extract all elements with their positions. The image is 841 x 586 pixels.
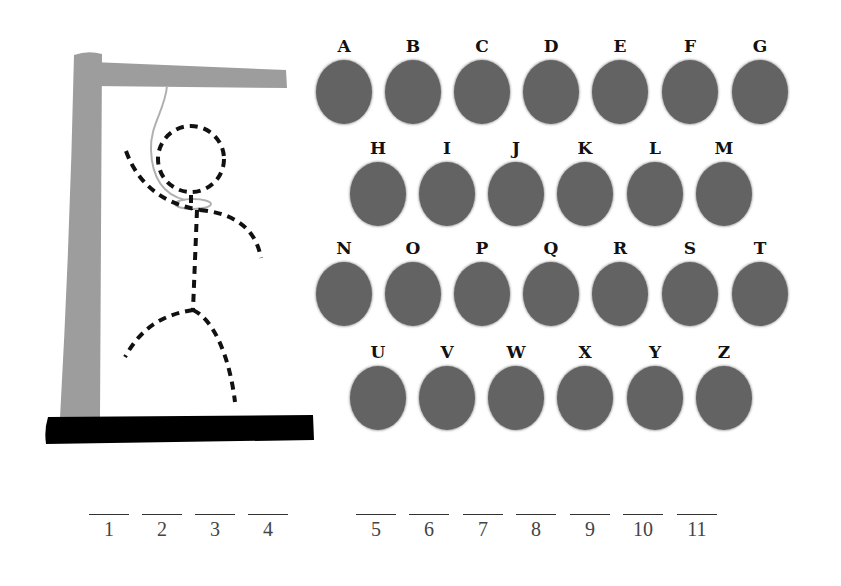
letter-button-n[interactable]: N — [316, 238, 372, 328]
blank-position: 1 — [89, 518, 129, 541]
blank-line — [142, 514, 182, 515]
letter-blank-9: 9 — [570, 514, 610, 554]
letter-disc[interactable] — [419, 162, 475, 226]
letter-label: H — [350, 138, 406, 158]
letter-button-x[interactable]: X — [557, 342, 613, 432]
letter-blank-5: 5 — [356, 514, 396, 554]
blank-position: 7 — [463, 518, 503, 541]
gallows-base — [45, 415, 314, 444]
letter-label: F — [662, 36, 718, 56]
letter-disc[interactable] — [732, 60, 788, 124]
letter-label: O — [385, 238, 441, 258]
letter-disc[interactable] — [350, 366, 406, 430]
blank-position: 3 — [195, 518, 235, 541]
letter-disc[interactable] — [627, 366, 683, 430]
figure-body — [193, 210, 197, 310]
letter-label: D — [523, 36, 579, 56]
letter-disc[interactable] — [627, 162, 683, 226]
blank-position: 4 — [248, 518, 288, 541]
letter-blank-6: 6 — [409, 514, 449, 554]
letter-disc[interactable] — [732, 262, 788, 326]
letter-label: T — [732, 238, 788, 258]
letter-button-u[interactable]: U — [350, 342, 406, 432]
letter-button-e[interactable]: E — [592, 36, 648, 126]
letter-button-p[interactable]: P — [454, 238, 510, 328]
letter-label: E — [592, 36, 648, 56]
letter-disc[interactable] — [662, 262, 718, 326]
letter-label: X — [557, 342, 613, 362]
letter-disc[interactable] — [696, 366, 752, 430]
figure-left-arm — [126, 151, 200, 210]
letter-disc[interactable] — [592, 262, 648, 326]
letter-button-c[interactable]: C — [454, 36, 510, 126]
letter-disc[interactable] — [454, 262, 510, 326]
letter-disc[interactable] — [557, 366, 613, 430]
figure-head — [158, 126, 224, 192]
letter-disc[interactable] — [662, 60, 718, 124]
letter-button-s[interactable]: S — [662, 238, 718, 328]
letter-disc[interactable] — [488, 162, 544, 226]
letter-blank-1: 1 — [89, 514, 129, 554]
blank-line — [623, 514, 663, 515]
letter-button-r[interactable]: R — [592, 238, 648, 328]
letter-button-f[interactable]: F — [662, 36, 718, 126]
letter-button-h[interactable]: H — [350, 138, 406, 228]
letter-label: Q — [523, 238, 579, 258]
letter-button-y[interactable]: Y — [627, 342, 683, 432]
letter-button-o[interactable]: O — [385, 238, 441, 328]
letter-label: W — [488, 342, 544, 362]
letter-button-t[interactable]: T — [732, 238, 788, 328]
letter-button-m[interactable]: M — [696, 138, 752, 228]
letter-disc[interactable] — [316, 60, 372, 124]
letter-disc[interactable] — [385, 262, 441, 326]
letter-button-l[interactable]: L — [627, 138, 683, 228]
blank-position: 9 — [570, 518, 610, 541]
letter-label: V — [419, 342, 475, 362]
letter-disc[interactable] — [696, 162, 752, 226]
letter-blank-11: 11 — [677, 514, 717, 554]
letter-label: Y — [627, 342, 683, 362]
letter-label: U — [350, 342, 406, 362]
letter-label: I — [419, 138, 475, 158]
letter-disc[interactable] — [592, 60, 648, 124]
letter-disc[interactable] — [419, 366, 475, 430]
letter-button-q[interactable]: Q — [523, 238, 579, 328]
letter-button-b[interactable]: B — [385, 36, 441, 126]
blank-position: 5 — [356, 518, 396, 541]
blank-line — [570, 514, 610, 515]
letter-label: A — [316, 36, 372, 56]
blank-position: 2 — [142, 518, 182, 541]
letter-disc[interactable] — [454, 60, 510, 124]
letter-label: C — [454, 36, 510, 56]
letter-button-j[interactable]: J — [488, 138, 544, 228]
gallows-post — [60, 52, 102, 418]
letter-disc[interactable] — [350, 162, 406, 226]
figure-right-leg — [193, 310, 235, 402]
letter-label: N — [316, 238, 372, 258]
letter-disc[interactable] — [523, 262, 579, 326]
letter-blank-10: 10 — [623, 514, 663, 554]
letter-disc[interactable] — [316, 262, 372, 326]
letter-disc[interactable] — [385, 60, 441, 124]
blank-line — [195, 514, 235, 515]
letter-button-z[interactable]: Z — [696, 342, 752, 432]
letter-button-w[interactable]: W — [488, 342, 544, 432]
letter-disc[interactable] — [488, 366, 544, 430]
letter-blank-3: 3 — [195, 514, 235, 554]
letter-button-v[interactable]: V — [419, 342, 475, 432]
letter-button-g[interactable]: G — [732, 36, 788, 126]
letter-label: Z — [696, 342, 752, 362]
letter-label: G — [732, 36, 788, 56]
letter-button-i[interactable]: I — [419, 138, 475, 228]
letter-disc[interactable] — [557, 162, 613, 226]
letter-button-d[interactable]: D — [523, 36, 579, 126]
blank-line — [516, 514, 556, 515]
letter-button-k[interactable]: K — [557, 138, 613, 228]
blank-line — [248, 514, 288, 515]
figure-right-arm — [200, 210, 261, 258]
letter-disc[interactable] — [523, 60, 579, 124]
letter-button-a[interactable]: A — [316, 36, 372, 126]
letter-label: M — [696, 138, 752, 158]
letter-label: S — [662, 238, 718, 258]
gallows-beam — [92, 62, 287, 88]
